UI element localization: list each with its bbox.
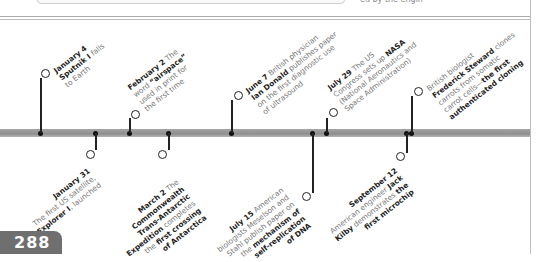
event-steward-cloning: British biologist Frederick Steward clon… <box>425 23 533 121</box>
timeline-stem <box>231 100 233 133</box>
timeline-stem <box>129 118 131 133</box>
event-jan-4: January 4 Sputnik I falls to Earth <box>52 34 112 89</box>
header-rule <box>0 16 530 20</box>
event-marker-icon <box>302 192 311 201</box>
timeline-stem <box>40 78 42 133</box>
event-marker-icon <box>329 108 338 117</box>
event-jan-31: January 31 The first US satellite, Explo… <box>24 166 103 236</box>
event-sept-12: September 12 American engineer Jack Kilb… <box>322 166 416 250</box>
header-text-fragment: ed by the engin <box>360 0 423 4</box>
event-marker-icon <box>158 150 167 159</box>
event-feb-2: February 2 The word “airspace” used in p… <box>126 45 200 114</box>
timeline-stem <box>168 133 170 150</box>
timeline-stem <box>312 133 314 193</box>
timeline-bar <box>0 129 530 137</box>
event-june-7: June 7 British physician Ian Donald publ… <box>244 23 350 117</box>
page-edge-rule <box>530 0 531 254</box>
timeline-stem <box>326 118 328 133</box>
timeline-stem <box>406 133 408 153</box>
timeline-stem <box>411 96 413 133</box>
event-marker-icon <box>131 110 140 119</box>
event-july-15: July 15 American biologists Meselson and… <box>210 186 313 262</box>
top-callout-box <box>37 0 345 4</box>
event-marker-icon <box>414 87 423 96</box>
event-march-2: March 2 The Commonwealth Trans-Antarctic… <box>108 178 208 262</box>
event-marker-icon <box>234 91 243 100</box>
timeline-stem <box>95 133 97 150</box>
event-marker-icon <box>86 150 95 159</box>
event-marker-icon <box>396 152 405 161</box>
event-marker-icon <box>41 69 50 78</box>
page-number: 288 <box>14 233 50 252</box>
